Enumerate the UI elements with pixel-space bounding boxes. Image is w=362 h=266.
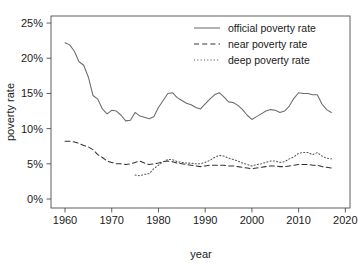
x-tick-label: 1980	[146, 214, 170, 226]
y-tick-label: 0%	[27, 193, 43, 205]
poverty-rate-chart: 1960197019801990200020102020 0%5%10%15%2…	[0, 0, 362, 266]
x-tick-label: 2020	[333, 214, 357, 226]
x-tick-label: 2010	[286, 214, 310, 226]
y-tick-label: 10%	[21, 123, 43, 135]
chart-canvas: 1960197019801990200020102020 0%5%10%15%2…	[0, 0, 362, 266]
x-tick-label: 1990	[193, 214, 217, 226]
x-tick-label: 1960	[53, 214, 77, 226]
legend-label: near poverty rate	[228, 38, 308, 50]
x-tick-label: 1970	[99, 214, 123, 226]
y-tick-label: 25%	[21, 17, 43, 29]
x-tick-label: 2000	[240, 214, 264, 226]
x-axis-title: year	[190, 248, 212, 260]
y-tick-label: 15%	[21, 87, 43, 99]
legend-label: deep poverty rate	[228, 54, 310, 66]
legend-label: official poverty rate	[228, 22, 316, 34]
y-axis-title: poverty rate	[4, 83, 16, 141]
y-tick-label: 20%	[21, 52, 43, 64]
chart-background	[0, 0, 362, 266]
y-tick-label: 5%	[27, 158, 43, 170]
